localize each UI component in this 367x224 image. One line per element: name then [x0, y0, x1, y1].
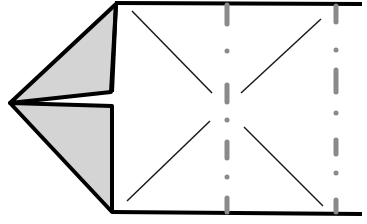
upper-flap	[10, 4, 116, 103]
fold-dot	[334, 48, 339, 53]
fold-dot	[225, 118, 230, 123]
lower-flap	[10, 103, 112, 212]
origami-diagram	[0, 0, 367, 224]
fold-dot	[225, 49, 230, 54]
bottom-edge	[112, 212, 362, 214]
fold-dot	[334, 171, 339, 176]
fold-dot	[225, 175, 230, 180]
fold-dot	[334, 111, 339, 116]
paper-body	[112, 3, 367, 213]
top-edge	[115, 3, 362, 4]
